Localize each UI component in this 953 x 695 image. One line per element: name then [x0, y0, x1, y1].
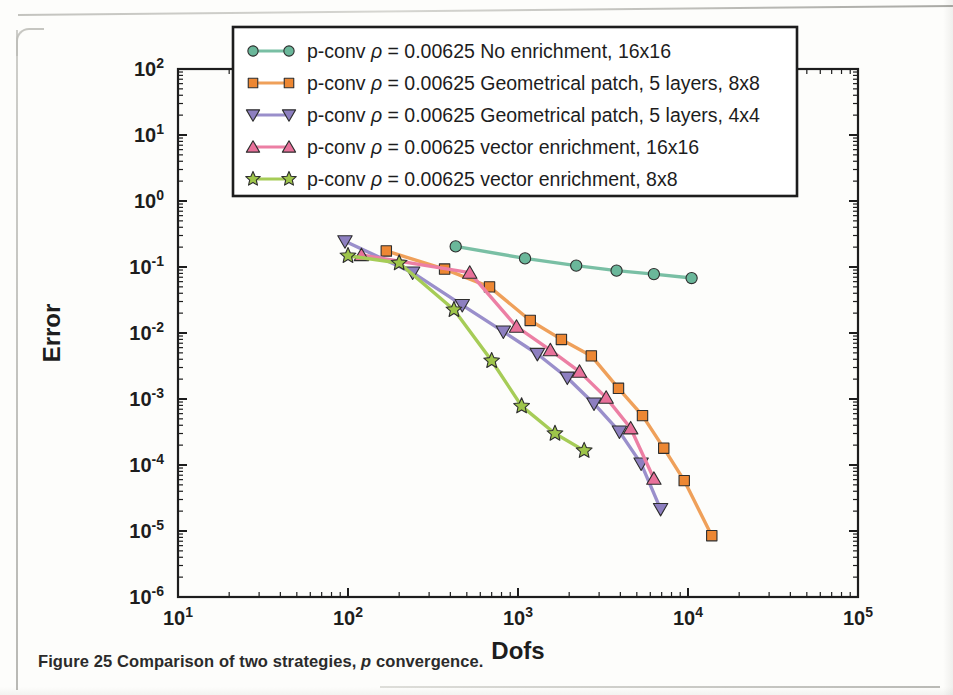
- svg-text:100: 100: [134, 187, 164, 212]
- y-tick-label: 10-1: [129, 253, 164, 278]
- legend-marker-square: [284, 78, 294, 88]
- y-tick-label: 10-6: [129, 583, 164, 608]
- svg-text:10-1: 10-1: [129, 253, 164, 278]
- svg-text:10-3: 10-3: [129, 385, 164, 410]
- legend-marker-circle: [248, 46, 258, 56]
- data-point-star: [340, 247, 356, 262]
- data-point-square: [525, 315, 535, 325]
- y-tick-label: 10-2: [129, 319, 164, 344]
- series-3: [354, 248, 661, 484]
- legend-label: p-conv ρ = 0.00625 vector enrichment, 8x…: [307, 168, 678, 190]
- svg-text:101: 101: [134, 121, 164, 146]
- y-axis-title: Error: [38, 304, 65, 363]
- svg-text:102: 102: [134, 55, 164, 80]
- y-tick-label: 10-5: [129, 517, 164, 542]
- y-tick-label: 102: [134, 55, 164, 80]
- data-point-square: [586, 351, 596, 361]
- data-point-triangle-down: [653, 503, 667, 515]
- caption-suffix: convergence.: [376, 652, 484, 670]
- data-point-square: [613, 383, 623, 393]
- convergence-chart: 10110210310410510210110010-110-210-310-4…: [0, 0, 953, 695]
- data-point-square: [637, 410, 647, 420]
- caption-prefix: Figure 25 Comparison of two strategies,: [38, 652, 356, 670]
- legend-label: p-conv ρ = 0.00625 Geometrical patch, 5 …: [307, 104, 760, 126]
- svg-text:10-5: 10-5: [129, 517, 164, 542]
- legend-entry-2[interactable]: p-conv ρ = 0.00625 Geometrical patch, 5 …: [246, 104, 760, 126]
- x-tick-label: 105: [843, 604, 873, 629]
- data-point-square: [679, 475, 689, 485]
- data-point-circle: [571, 260, 582, 271]
- svg-text:10-6: 10-6: [129, 583, 164, 608]
- legend-entry-1[interactable]: p-conv ρ = 0.00625 Geometrical patch, 5 …: [248, 72, 760, 94]
- y-tick-label: 101: [134, 121, 164, 146]
- y-tick-label: 10-3: [129, 385, 164, 410]
- svg-text:102: 102: [333, 604, 363, 629]
- data-point-square: [381, 246, 391, 256]
- data-point-circle: [648, 269, 659, 280]
- series-layer: [338, 236, 717, 541]
- data-point-circle: [450, 241, 461, 252]
- x-tick-label: 101: [163, 604, 193, 629]
- legend-entry-0[interactable]: p-conv ρ = 0.00625 No enrichment, 16x16: [248, 40, 671, 62]
- y-tick-label: 100: [134, 187, 164, 212]
- legend-label: p-conv ρ = 0.00625 No enrichment, 16x16: [307, 40, 671, 62]
- legend-marker-circle: [284, 46, 294, 56]
- data-point-circle: [686, 272, 697, 283]
- svg-text:101: 101: [163, 604, 193, 629]
- data-point-circle: [611, 265, 622, 276]
- svg-text:104: 104: [673, 604, 703, 629]
- data-point-circle: [519, 253, 530, 264]
- x-tick-label: 104: [673, 604, 703, 629]
- x-tick-label: 103: [503, 604, 533, 629]
- legend-label: p-conv ρ = 0.00625 Geometrical patch, 5 …: [307, 72, 760, 94]
- svg-text:10-4: 10-4: [129, 451, 164, 476]
- x-tick-label: 102: [333, 604, 363, 629]
- data-point-star: [576, 442, 592, 457]
- legend-label: p-conv ρ = 0.00625 vector enrichment, 16…: [307, 136, 699, 158]
- data-point-square: [659, 443, 669, 453]
- series-0: [450, 241, 697, 284]
- caption-italic-p: p: [361, 652, 371, 670]
- svg-text:105: 105: [843, 604, 873, 629]
- data-point-square: [556, 334, 566, 344]
- legend-marker-square: [248, 78, 258, 88]
- y-tick-label: 10-4: [129, 451, 164, 476]
- svg-text:103: 103: [503, 604, 533, 629]
- legend-entry-4[interactable]: p-conv ρ = 0.00625 vector enrichment, 8x…: [246, 168, 678, 190]
- legend-layer: p-conv ρ = 0.00625 No enrichment, 16x16p…: [233, 27, 797, 196]
- figure-25: 10110210310410510210110010-110-210-310-4…: [0, 0, 953, 695]
- legend-entry-3[interactable]: p-conv ρ = 0.00625 vector enrichment, 16…: [246, 136, 699, 158]
- data-point-square: [707, 530, 717, 540]
- figure-caption: Figure 25 Comparison of two strategies, …: [38, 652, 738, 671]
- svg-text:10-2: 10-2: [129, 319, 164, 344]
